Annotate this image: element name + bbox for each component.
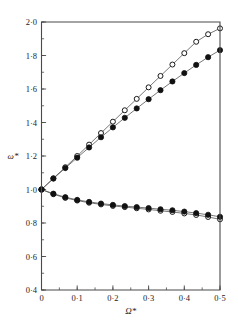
chart-plot: 00·10·20·30·40·5 0·40·60·81·01·21·41·61·… <box>0 0 238 333</box>
data-point-marker <box>206 55 211 60</box>
x-tick-label: 0·1 <box>72 293 83 303</box>
y-tick-label: 0·8 <box>26 218 37 228</box>
data-point-marker <box>110 119 115 124</box>
data-point-marker <box>146 85 151 90</box>
x-tick-label: 0·4 <box>179 293 191 303</box>
data-point-marker <box>134 106 139 111</box>
x-axis-tick-labels: 00·10·20·30·40·5 <box>39 293 225 303</box>
data-point-marker <box>182 70 187 75</box>
x-tick-label: 0·3 <box>143 293 154 303</box>
y-tick-label: 1·2 <box>26 151 37 161</box>
data-point-marker <box>182 51 187 56</box>
data-point-marker <box>63 165 68 170</box>
series-line <box>42 50 221 189</box>
y-tick-label: 2·0 <box>26 17 37 27</box>
plot-frame <box>42 22 221 290</box>
data-point-marker <box>63 195 68 200</box>
data-point-marker <box>170 62 175 67</box>
data-point-marker <box>158 88 163 93</box>
data-point-marker <box>170 79 175 84</box>
series-lower-branch-filled <box>39 187 223 220</box>
data-point-marker <box>122 115 127 120</box>
y-axis-major-ticks <box>42 22 47 290</box>
data-point-marker <box>51 176 56 181</box>
data-point-marker <box>122 203 127 208</box>
data-point-marker <box>158 73 163 78</box>
data-point-marker <box>86 145 91 150</box>
data-point-marker <box>194 39 199 44</box>
data-point-marker <box>146 205 151 210</box>
y-axis-tick-labels: 0·40·60·81·01·21·41·61·82·0 <box>26 17 38 295</box>
series-lower-branch-open <box>39 187 223 222</box>
figure-container: 00·10·20·30·40·5 0·40·60·81·01·21·41·61·… <box>0 0 238 333</box>
data-point-marker <box>98 201 103 206</box>
data-point-marker <box>134 96 139 101</box>
y-tick-label: 1·6 <box>26 84 37 94</box>
x-tick-label: 0 <box>39 293 43 303</box>
series-upper-branch-filled <box>39 48 223 193</box>
y-tick-label: 0·4 <box>26 285 38 295</box>
x-axis-title: Ω* <box>125 306 137 316</box>
y-tick-label: 1·8 <box>26 51 37 61</box>
data-point-marker <box>110 202 115 207</box>
data-point-marker <box>51 191 56 196</box>
y-tick-label: 1·4 <box>26 118 38 128</box>
data-point-marker <box>206 212 211 217</box>
data-series-layer <box>39 26 223 222</box>
data-point-marker <box>182 209 187 214</box>
data-point-marker <box>134 204 139 209</box>
data-point-marker <box>206 32 211 37</box>
data-point-marker <box>122 108 127 113</box>
data-point-marker <box>86 199 91 204</box>
data-point-marker <box>194 62 199 67</box>
y-axis-title: ω* <box>8 151 19 161</box>
data-point-marker <box>110 125 115 130</box>
y-tick-label: 1·0 <box>26 185 37 195</box>
data-point-marker <box>170 208 175 213</box>
data-point-marker <box>194 211 199 216</box>
data-point-marker <box>75 155 80 160</box>
data-point-marker <box>158 207 163 212</box>
data-point-marker <box>146 97 151 102</box>
y-tick-label: 0·6 <box>26 252 37 262</box>
data-point-marker <box>75 197 80 202</box>
data-point-marker <box>98 135 103 140</box>
x-tick-label: 0·5 <box>214 293 225 303</box>
x-tick-label: 0·2 <box>107 293 118 303</box>
